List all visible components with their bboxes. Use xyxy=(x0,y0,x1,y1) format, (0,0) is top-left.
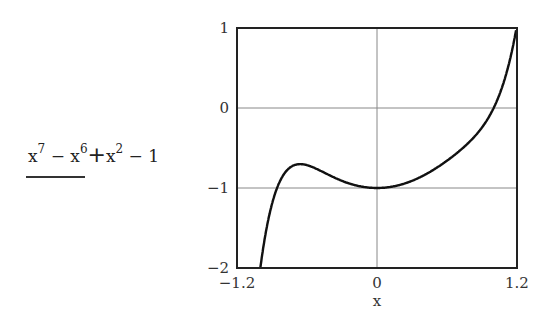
function-curve xyxy=(260,30,516,268)
tick-labels: 10−1−2−1.201.2 xyxy=(207,19,529,292)
tick-label: 1.2 xyxy=(505,274,529,292)
tick-label: 1 xyxy=(219,19,229,37)
tick-label: 0 xyxy=(219,99,229,117)
function-plot: 10−1−2−1.201.2 x xyxy=(0,0,551,332)
grid-lines xyxy=(237,28,517,268)
tick-label: −1 xyxy=(207,179,229,197)
tick-label: −1.2 xyxy=(219,274,255,292)
x-axis-label: x xyxy=(373,292,382,310)
tick-label: 0 xyxy=(372,274,382,292)
